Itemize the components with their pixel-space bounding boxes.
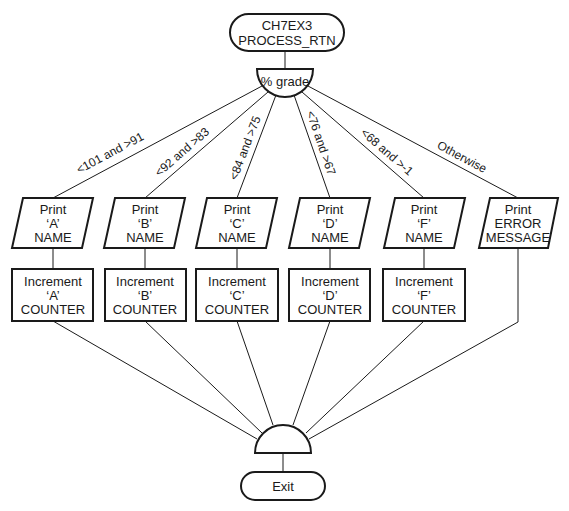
print-d-line1: Print [317, 202, 344, 217]
merge-line-c [237, 321, 273, 425]
print-b-line2: ‘B’ [138, 216, 153, 231]
process-f-line2: ‘F’ [417, 288, 431, 303]
process-f-line3: COUNTER [392, 302, 456, 317]
merge-line-a [53, 321, 257, 439]
print-error-line2: ERROR [495, 216, 542, 231]
process-d-line1: Increment [301, 274, 359, 289]
start-subtitle: PROCESS_RTN [238, 33, 335, 48]
decision-label: % grade [261, 74, 309, 89]
branch-d: Print ‘D’ NAME Increment ‘D’ COUNTER [289, 198, 370, 321]
start-terminator: CH7EX3 PROCESS_RTN [230, 14, 344, 51]
print-a-line2: ‘A’ [46, 216, 60, 231]
print-f-line1: Print [411, 202, 438, 217]
print-f-line3: NAME [405, 230, 443, 245]
process-a-line3: COUNTER [21, 302, 85, 317]
branch-line-otherwise [308, 86, 518, 198]
merge-connector-shape [255, 425, 311, 453]
flowchart-diagram: CH7EX3 PROCESS_RTN % grade <101 and >91 … [0, 0, 569, 511]
process-b-line3: COUNTER [113, 302, 177, 317]
branch-conditions: <101 and >91 <92 and >83 <84 and >75 <76… [74, 109, 489, 182]
merge-line-b [145, 321, 262, 433]
condition-label-a: <101 and >91 [74, 129, 146, 176]
print-d-line2: ‘D’ [322, 216, 337, 231]
process-b-line1: Increment [116, 274, 174, 289]
start-title: CH7EX3 [262, 18, 313, 33]
condition-label-c: <84 and >75 [226, 114, 263, 182]
print-b-line3: NAME [126, 230, 164, 245]
process-c-line2: ‘C’ [229, 288, 244, 303]
process-c-line3: COUNTER [205, 302, 269, 317]
print-error-line1: Print [505, 202, 532, 217]
branch-b: Print ‘B’ NAME Increment ‘B’ COUNTER [104, 198, 186, 321]
branch-otherwise: Print ERROR MESSAGE [479, 198, 558, 248]
process-d-line2: ‘D’ [322, 288, 337, 303]
exit-label: Exit [272, 479, 294, 494]
flowchart-canvas: CH7EX3 PROCESS_RTN % grade <101 and >91 … [0, 0, 569, 511]
print-error-line3: MESSAGE [486, 230, 551, 245]
print-c-line1: Print [224, 202, 251, 217]
print-d-line3: NAME [311, 230, 349, 245]
branch-line-a [53, 86, 262, 198]
decision-node: % grade [257, 69, 313, 97]
process-d-line3: COUNTER [298, 302, 362, 317]
process-a-line1: Increment [24, 274, 82, 289]
condition-label-b: <92 and >83 [152, 124, 212, 179]
print-a-line3: NAME [34, 230, 72, 245]
branch-a: Print ‘A’ NAME Increment ‘A’ COUNTER [12, 198, 93, 321]
process-c-line1: Increment [208, 274, 266, 289]
print-f-line2: ‘F’ [417, 216, 431, 231]
branch-f: Print ‘F’ NAME Increment ‘F’ COUNTER [383, 198, 465, 321]
condition-label-f: <68 and >-1 [358, 125, 416, 178]
print-c-line2: ‘C’ [229, 216, 244, 231]
condition-label-otherwise: Otherwise [435, 138, 490, 176]
print-c-line3: NAME [218, 230, 256, 245]
process-a-line2: ‘A’ [46, 288, 60, 303]
print-b-line1: Print [132, 202, 159, 217]
merge-line-d [293, 321, 330, 425]
process-f-line1: Increment [395, 274, 453, 289]
exit-terminator: Exit [241, 472, 325, 500]
print-a-line1: Print [40, 202, 67, 217]
branch-c: Print ‘C’ NAME Increment ‘C’ COUNTER [196, 198, 278, 321]
process-b-line2: ‘B’ [138, 288, 153, 303]
